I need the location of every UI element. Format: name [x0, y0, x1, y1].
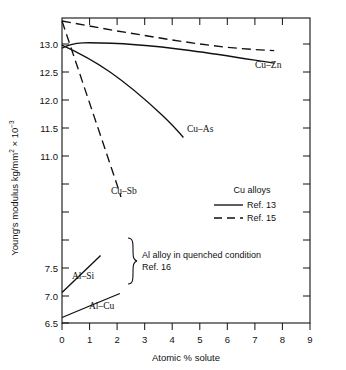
x-axis-title: Atomic % solute [152, 352, 220, 363]
x-tick-label: 6 [225, 334, 230, 345]
figure-container: 13.0 12.5 12.0 11.5 11.0 7.5 7.0 6.5 0 1… [0, 0, 346, 370]
y-axis-title: Young's modulus kg/mm2 × 10−3 [8, 120, 20, 256]
x-tick-label: 3 [142, 334, 147, 345]
annotation-line-1: Al alloy in quenched condition [142, 250, 261, 260]
x-tick-label: 8 [280, 334, 285, 345]
x-tick-labels: 0 1 2 3 4 5 6 7 8 9 [59, 334, 312, 345]
series-label-cu-as: Cu–As [187, 124, 214, 134]
bottom-axis-ticks [62, 323, 310, 330]
x-tick-label: 7 [252, 334, 257, 345]
y-axis-title-exp-scale: −3 [8, 120, 15, 128]
legend-title: Cu alloys [233, 185, 271, 195]
series-label-al-cu: Al–Cu [89, 301, 115, 311]
y-axis-title-main: Young's modulus kg/mm [9, 153, 20, 256]
x-tick-label: 1 [87, 334, 92, 345]
y-tick-label: 7.5 [45, 263, 58, 274]
y-tick-label: 13.0 [40, 39, 59, 50]
annotation-line-2: Ref. 16 [142, 262, 171, 272]
y-tick-label: 12.0 [40, 95, 59, 106]
series-label-cu-zn: Cu–Zn [255, 60, 282, 70]
y-tick-label: 7.0 [45, 291, 58, 302]
legend-label-ref-13: Ref. 13 [247, 200, 276, 210]
x-tick-label: 5 [197, 334, 202, 345]
legend-label-ref-15: Ref. 15 [247, 213, 276, 223]
y-axis-title-mid: × 10 [9, 128, 20, 149]
y-tick-labels: 13.0 12.5 12.0 11.5 11.0 7.5 7.0 6.5 [40, 39, 59, 329]
x-tick-label: 0 [59, 334, 64, 345]
series-label-al-si: Al–Si [72, 271, 95, 281]
series-label-cu-sb: Cu–Sb [111, 186, 137, 196]
y-tick-label: 12.5 [40, 67, 59, 78]
y-tick-label: 11.5 [40, 123, 58, 134]
y-tick-label: 11.0 [40, 151, 58, 162]
x-tick-label: 4 [170, 334, 175, 345]
x-tick-label: 9 [307, 334, 312, 345]
x-tick-label: 2 [114, 334, 119, 345]
youngs-modulus-vs-solute-chart: 13.0 12.5 12.0 11.5 11.0 7.5 7.0 6.5 0 1… [0, 0, 346, 370]
y-tick-label: 6.5 [45, 318, 58, 329]
